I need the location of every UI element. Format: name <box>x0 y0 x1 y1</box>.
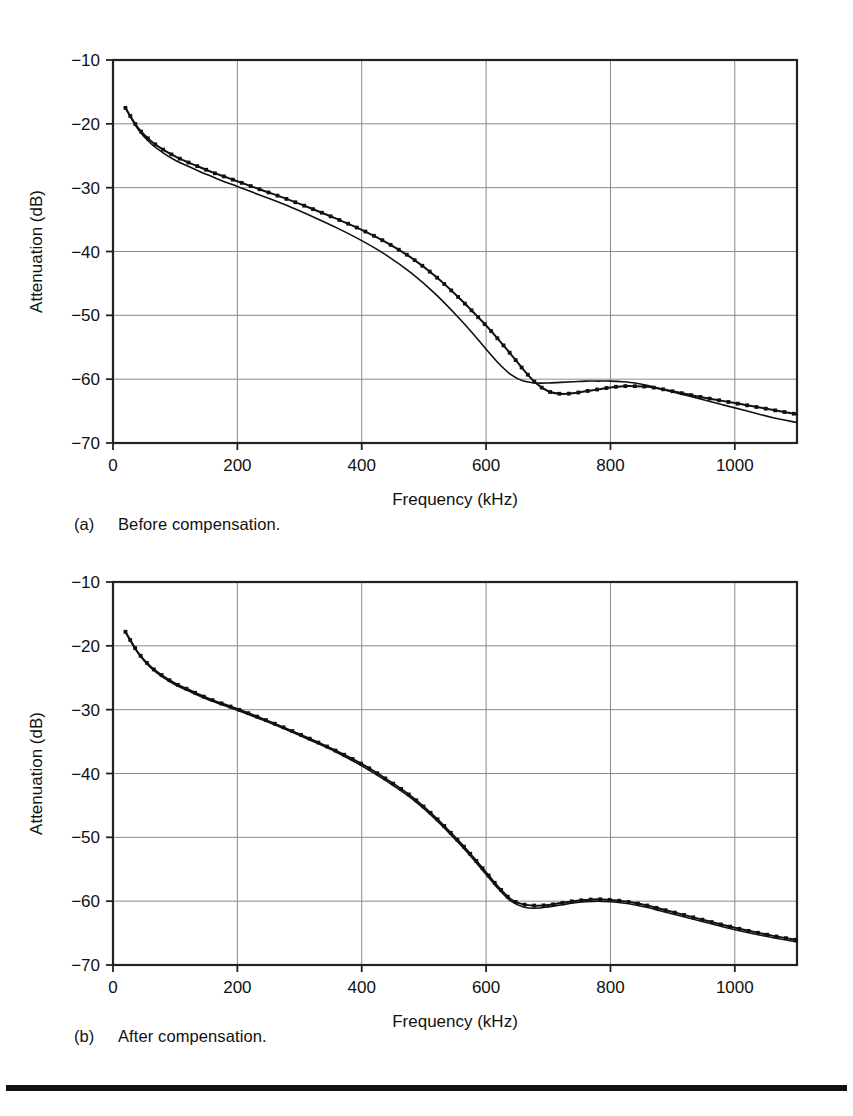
xtick-label-0: 0 <box>108 978 117 997</box>
data-marker <box>420 264 424 268</box>
series-simulated <box>125 632 797 942</box>
data-marker <box>249 184 253 188</box>
ytick-label--70: −70 <box>71 434 100 453</box>
data-marker <box>614 385 618 389</box>
figure-page: −10−20−30−40−50−60−7002004006008001000Fr… <box>0 0 853 1116</box>
ytick-label--60: −60 <box>71 892 100 911</box>
series-simulated <box>125 108 797 423</box>
data-marker <box>449 289 453 293</box>
data-marker <box>258 187 262 191</box>
data-marker <box>329 214 333 218</box>
xtick-label-800: 800 <box>596 456 624 475</box>
data-marker <box>397 248 401 252</box>
data-marker <box>526 373 530 377</box>
ytick-label--20: −20 <box>71 637 100 656</box>
xtick-label-200: 200 <box>223 978 251 997</box>
xtick-label-400: 400 <box>348 978 376 997</box>
horizontal-rule <box>6 1085 847 1091</box>
series-measured <box>124 106 797 416</box>
data-marker <box>764 407 768 411</box>
data-marker <box>405 253 409 257</box>
data-marker <box>372 234 376 238</box>
xtick-label-400: 400 <box>348 456 376 475</box>
series-line-simulated <box>125 632 797 942</box>
ytick-label--50: −50 <box>71 828 100 847</box>
caption-b: (b)After compensation. <box>74 1027 267 1046</box>
data-marker <box>508 351 512 355</box>
data-marker <box>605 386 609 390</box>
data-marker <box>773 408 777 412</box>
xtick-label-1000: 1000 <box>716 978 754 997</box>
data-marker <box>483 322 487 326</box>
data-marker <box>302 204 306 208</box>
ytick-label--40: −40 <box>71 765 100 784</box>
data-marker <box>489 329 493 333</box>
ytick-label--30: −30 <box>71 701 100 720</box>
data-marker <box>276 194 280 198</box>
ytick-label--70: −70 <box>71 956 100 975</box>
chart-a-plot-area: −10−20−30−40−50−60−7002004006008001000Fr… <box>0 0 853 510</box>
xtick-label-1000: 1000 <box>716 456 754 475</box>
series-line-measured <box>125 632 797 940</box>
xtick-label-0: 0 <box>108 456 117 475</box>
data-marker <box>178 157 182 161</box>
data-marker <box>285 197 289 201</box>
data-marker <box>595 388 599 392</box>
data-marker <box>231 178 235 182</box>
data-marker <box>623 384 627 388</box>
data-marker <box>520 366 524 370</box>
data-marker <box>548 390 552 394</box>
series-measured <box>124 630 798 942</box>
ytick-label--10: −10 <box>71 573 100 592</box>
data-marker <box>726 400 730 404</box>
data-marker <box>586 389 590 393</box>
chart-b-svg: −10−20−30−40−50−60−7002004006008001000Fr… <box>0 522 853 1032</box>
data-marker <box>514 358 518 362</box>
data-marker <box>708 397 712 401</box>
ytick-label--30: −30 <box>71 179 100 198</box>
xtick-label-800: 800 <box>596 978 624 997</box>
xtick-label-200: 200 <box>223 456 251 475</box>
series-line-measured <box>125 108 797 414</box>
data-marker <box>337 218 341 222</box>
data-marker <box>540 386 544 390</box>
data-marker <box>240 181 244 185</box>
data-marker <box>442 282 446 286</box>
xtick-label-600: 600 <box>472 978 500 997</box>
ytick-label--20: −20 <box>71 115 100 134</box>
data-marker <box>470 308 474 312</box>
data-marker <box>389 243 393 247</box>
data-marker <box>456 295 460 299</box>
ytick-label--10: −10 <box>71 51 100 70</box>
chart-a-svg: −10−20−30−40−50−60−7002004006008001000Fr… <box>0 0 853 510</box>
data-marker <box>355 226 359 230</box>
caption-b-text: After compensation. <box>118 1027 267 1045</box>
x-axis-title: Frequency (kHz) <box>392 1012 518 1031</box>
data-marker <box>169 152 173 156</box>
data-marker <box>346 222 350 226</box>
data-marker <box>576 391 580 395</box>
y-axis-title: Attenuation (dB) <box>27 190 46 313</box>
data-marker <box>495 336 499 340</box>
data-marker <box>745 403 749 407</box>
data-marker <box>463 302 467 306</box>
y-axis-title: Attenuation (dB) <box>27 712 46 835</box>
data-marker <box>204 168 208 172</box>
figure-panel-b: −10−20−30−40−50−60−7002004006008001000Fr… <box>0 522 853 1082</box>
data-marker <box>717 398 721 402</box>
data-marker <box>523 903 527 907</box>
data-marker <box>311 207 315 211</box>
series-line-simulated <box>125 108 797 423</box>
data-marker <box>428 270 432 274</box>
data-marker <box>502 344 506 348</box>
data-marker <box>736 402 740 406</box>
ytick-label--40: −40 <box>71 243 100 262</box>
data-marker <box>195 164 199 168</box>
caption-b-tag: (b) <box>74 1027 118 1046</box>
ytick-label--60: −60 <box>71 370 100 389</box>
data-marker <box>567 392 571 396</box>
xtick-label-600: 600 <box>472 456 500 475</box>
figure-panel-a: −10−20−30−40−50−60−7002004006008001000Fr… <box>0 0 853 558</box>
data-marker <box>557 392 561 396</box>
chart-b-plot-area: −10−20−30−40−50−60−7002004006008001000Fr… <box>0 522 853 1032</box>
